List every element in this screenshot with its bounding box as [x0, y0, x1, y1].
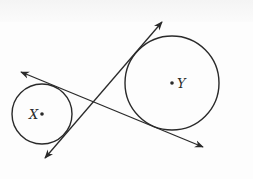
- tangent-line-2: [45, 22, 162, 158]
- center-point-x: [40, 112, 44, 116]
- diagram-canvas: X Y: [0, 0, 253, 179]
- tangent-line-1: [21, 72, 203, 147]
- tangent-circles-figure: X Y: [0, 0, 253, 179]
- label-x: X: [28, 107, 39, 122]
- center-point-y: [170, 81, 174, 85]
- label-y: Y: [177, 76, 187, 91]
